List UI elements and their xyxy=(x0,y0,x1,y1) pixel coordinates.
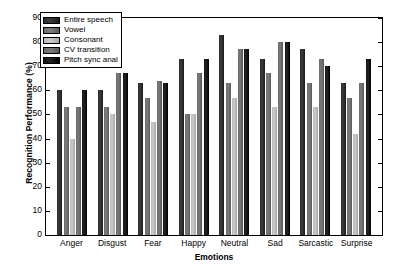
bar[interactable] xyxy=(300,49,305,235)
bar[interactable] xyxy=(232,98,237,235)
bar-group xyxy=(336,18,377,235)
bar[interactable] xyxy=(260,59,265,235)
legend-swatch-icon xyxy=(43,17,60,24)
bar[interactable] xyxy=(307,83,312,235)
legend-swatch-icon xyxy=(43,27,60,34)
y-tick-label: 10 xyxy=(33,205,42,215)
bar[interactable] xyxy=(319,59,324,235)
bar[interactable] xyxy=(110,114,115,235)
bar-group xyxy=(174,18,215,235)
bar[interactable] xyxy=(76,107,81,235)
bar[interactable] xyxy=(278,42,283,235)
legend-item[interactable]: Vowel xyxy=(43,25,118,35)
bar[interactable] xyxy=(157,81,162,235)
bar-group xyxy=(255,18,296,235)
bar[interactable] xyxy=(285,42,290,235)
bar[interactable] xyxy=(104,107,109,235)
bar[interactable] xyxy=(272,107,277,235)
x-tick-label-fear: Fear xyxy=(133,238,174,248)
x-axis-tick-labels: AngerDisgustFearHappyNeutralSadSarcastic… xyxy=(45,238,383,248)
bar[interactable] xyxy=(313,107,318,235)
figure: Recognition Performance (%) 010203040506… xyxy=(0,0,403,274)
bar[interactable] xyxy=(204,59,209,235)
x-tick-label-anger: Anger xyxy=(51,238,92,248)
bar[interactable] xyxy=(138,83,143,235)
bar[interactable] xyxy=(266,73,271,235)
bar[interactable] xyxy=(353,134,358,235)
x-tick-label-happy: Happy xyxy=(173,238,214,248)
y-tick-label: 40 xyxy=(33,133,42,143)
bar[interactable] xyxy=(347,98,352,235)
x-tick-label-neutral: Neutral xyxy=(214,238,255,248)
bar[interactable] xyxy=(197,73,202,235)
x-tick-label-surprise: Surprise xyxy=(336,238,377,248)
y-tick-label: 60 xyxy=(33,84,42,94)
bar[interactable] xyxy=(325,66,330,235)
bar[interactable] xyxy=(116,73,121,235)
bar[interactable] xyxy=(185,114,190,235)
bar[interactable] xyxy=(341,83,346,235)
legend-label: Consonant xyxy=(64,35,103,45)
bar[interactable] xyxy=(179,59,184,235)
bar[interactable] xyxy=(64,107,69,235)
x-tick-label-sarcastic: Sarcastic xyxy=(296,238,337,248)
bar-group xyxy=(133,18,174,235)
legend-label: Pitch sync anal xyxy=(64,55,118,65)
legend-label: Entire speech xyxy=(64,15,113,25)
x-axis-title: Emotions xyxy=(45,252,383,262)
y-tick-label: 20 xyxy=(33,181,42,191)
bar[interactable] xyxy=(244,49,249,235)
legend-item[interactable]: Consonant xyxy=(43,35,118,45)
legend-swatch-icon xyxy=(43,57,60,64)
legend: Entire speechVowelConsonantCV transition… xyxy=(40,12,122,68)
bar[interactable] xyxy=(123,73,128,235)
y-tick-label: 50 xyxy=(33,108,42,118)
bar[interactable] xyxy=(359,83,364,235)
x-tick-label-sad: Sad xyxy=(255,238,296,248)
legend-swatch-icon xyxy=(43,37,60,44)
legend-item[interactable]: Entire speech xyxy=(43,15,118,25)
bar[interactable] xyxy=(145,98,150,235)
bar[interactable] xyxy=(163,83,168,235)
bar[interactable] xyxy=(226,83,231,235)
bar[interactable] xyxy=(70,139,75,235)
bar[interactable] xyxy=(366,59,371,235)
bar[interactable] xyxy=(219,35,224,235)
bar-group xyxy=(295,18,336,235)
y-tick-label: 30 xyxy=(33,157,42,167)
legend-item[interactable]: CV transition xyxy=(43,45,118,55)
legend-label: CV transition xyxy=(64,45,110,55)
y-tick-label: 0 xyxy=(37,229,42,239)
bar[interactable] xyxy=(82,90,87,235)
legend-label: Vowel xyxy=(64,25,85,35)
bar[interactable] xyxy=(98,90,103,235)
bar[interactable] xyxy=(57,90,62,235)
x-tick-label-disgust: Disgust xyxy=(92,238,133,248)
bar-group xyxy=(214,18,255,235)
legend-item[interactable]: Pitch sync anal xyxy=(43,55,118,65)
y-tick-mark xyxy=(46,235,50,236)
bar[interactable] xyxy=(191,114,196,235)
legend-swatch-icon xyxy=(43,47,60,54)
y-tick-mark-right xyxy=(378,235,382,236)
bar[interactable] xyxy=(238,49,243,235)
bar[interactable] xyxy=(151,122,156,235)
